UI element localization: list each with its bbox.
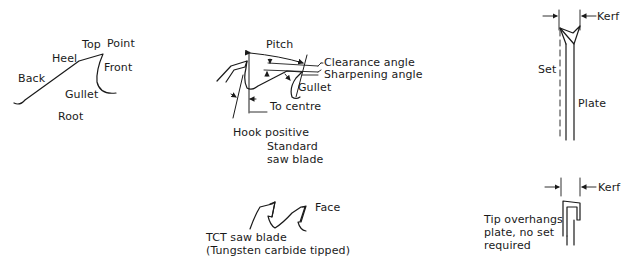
- caption-required: required: [484, 239, 531, 252]
- label-to-centre: To centre: [270, 100, 321, 113]
- tct-blade-drawing: [250, 202, 306, 231]
- label-gullet: Gullet: [65, 88, 98, 101]
- caption-saw-blade: saw blade: [267, 153, 323, 166]
- label-point: Point: [107, 37, 135, 50]
- caption-standard: Standard: [267, 140, 318, 153]
- label-front: Front: [104, 61, 132, 74]
- label-pitch: Pitch: [266, 38, 293, 51]
- caption-tip-overhangs: Tip overhangs: [484, 213, 563, 226]
- label-root: Root: [58, 110, 83, 123]
- caption-tungsten-carbide: (Tungsten carbide tipped): [206, 244, 350, 257]
- label-sharpening-angle: Sharpening angle: [324, 68, 423, 81]
- label-gullet: Gullet: [298, 81, 331, 94]
- label-top: Top: [82, 38, 101, 51]
- caption-plate-no-set: plate, no set: [484, 226, 554, 239]
- label-face: Face: [315, 201, 340, 214]
- label-set: Set: [538, 63, 556, 76]
- label-kerf: Kerf: [597, 10, 619, 23]
- label-plate: Plate: [578, 97, 606, 110]
- label-kerf-tct: Kerf: [598, 181, 620, 194]
- label-hook-positive: Hook positive: [233, 126, 309, 139]
- label-back: Back: [18, 72, 45, 85]
- caption-tct-saw-blade: TCT saw blade: [206, 231, 287, 244]
- label-heel: Heel: [52, 52, 77, 65]
